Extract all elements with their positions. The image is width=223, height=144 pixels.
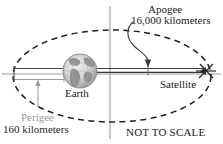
earth-globe-icon [63, 54, 97, 88]
orbit-ellipse [13, 30, 211, 122]
perigee-distance-label: 160 kilometers [3, 124, 69, 135]
perigee-pointer-arrow [35, 80, 40, 109]
not-to-scale-note: NOT TO SCALE [126, 127, 205, 138]
satellite-label: Satellite [160, 79, 196, 90]
satellite-icon [196, 64, 216, 78]
apogee-distance-label: 16,000 kilometers [131, 15, 210, 26]
perigee-label: Perigee [21, 112, 54, 123]
earth-label: Earth [65, 88, 89, 99]
orbit-diagram: Apogee 16,000 kilometers Earth Satellite… [0, 0, 223, 144]
apogee-pointer-arrow [128, 22, 151, 68]
